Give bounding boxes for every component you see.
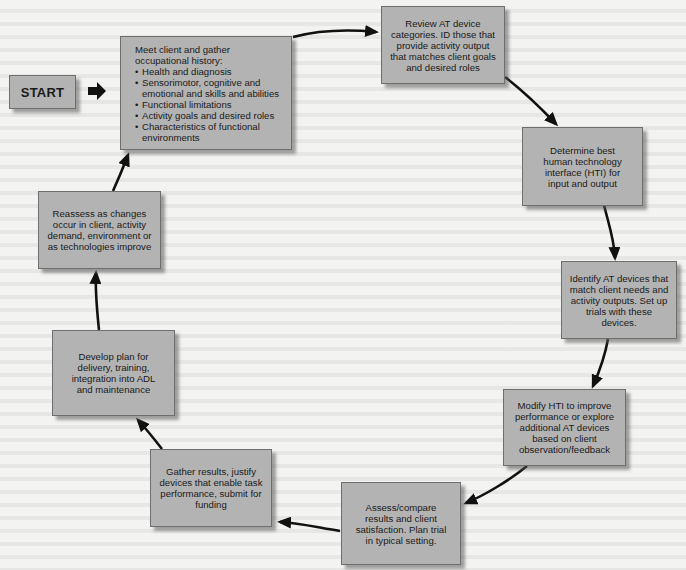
arrow-modify-to-assess [466,466,527,503]
bullet-item: Characteristics of functional environmen… [135,121,283,143]
step-text: Identify AT devices that match client ne… [562,269,676,332]
step-meet-client: Meet client and gather occupational hist… [120,36,292,150]
arrow-develop-to-reassess [96,273,99,330]
arrow-reassess-to-meet [113,155,128,191]
step-modify-hti: Modify HTI to improve performance or exp… [503,389,626,466]
step-text: Reassess as changes occur in client, act… [39,204,160,256]
step-text: Assess/compare results and client satisf… [342,498,460,550]
step-text: Develop plan for delivery, training, int… [53,347,174,399]
step-gather-results: Gather results, justify devices that ena… [150,449,272,527]
arrow-assess-to-gather [280,522,340,531]
step-text: Determine best human technology interfac… [523,141,642,193]
arrow-gather-to-develop [138,420,162,449]
arrow-identify-to-modify [593,339,608,386]
arrow-review-to-determine [505,77,556,124]
step-review-at: Review AT device categories. ID those th… [381,6,505,84]
step-identify-at: Identify AT devices that match client ne… [561,261,677,339]
step-text: Review AT device categories. ID those th… [382,14,504,77]
bullet-item: Health and diagnosis [135,66,283,77]
start-label: START [21,87,64,98]
step-text: Modify HTI to improve performance or exp… [504,396,625,459]
step-assess-compare: Assess/compare results and client satisf… [341,482,461,565]
arrow-meet-to-review [293,30,376,37]
bullet-item: Activity goals and desired roles [135,110,283,121]
step-heading: Meet client and gather occupational hist… [135,44,283,66]
bullet-item: Functional limitations [135,99,283,110]
start-to-meet-arrow-icon [88,82,106,100]
step-reassess: Reassess as changes occur in client, act… [38,191,161,269]
bullet-item: Sensorimotor, cognitive and emotional an… [135,77,283,99]
step-develop-plan: Develop plan for delivery, training, int… [52,330,175,416]
start-box: START [9,75,76,109]
step-bullet-list: Health and diagnosis Sensorimotor, cogni… [135,66,283,143]
step-text: Gather results, justify devices that ena… [151,462,271,514]
step-determine-hti: Determine best human technology interfac… [522,127,643,206]
arrow-determine-to-identify [604,205,615,258]
